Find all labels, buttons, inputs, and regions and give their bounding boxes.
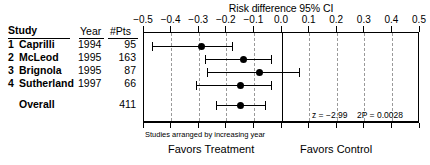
study-1-ci-line bbox=[152, 46, 232, 47]
table-row-overall: Overall411 bbox=[0, 98, 140, 111]
x-tick-bottom bbox=[336, 123, 337, 128]
x-tick-bottom bbox=[281, 123, 282, 128]
x-tick-bottom bbox=[143, 123, 144, 128]
overall-ci-cap-high bbox=[265, 101, 266, 110]
study-3-ci-cap-high bbox=[299, 68, 300, 77]
overall-ci-cap-low bbox=[216, 101, 217, 110]
table-row-study-4-name: Sutherland bbox=[19, 77, 74, 89]
table-row-study-3-name: Brignola bbox=[19, 64, 62, 76]
study-2-ci-cap-high bbox=[271, 55, 272, 64]
chart-title: Risk difference 95% CI bbox=[143, 2, 419, 14]
gridline bbox=[309, 33, 310, 121]
x-tick-label: −0.1 bbox=[244, 14, 264, 25]
x-tick-label: 0.1 bbox=[302, 14, 316, 25]
table-row-overall-pts: 411 bbox=[108, 98, 136, 110]
x-tick-label: −0.2 bbox=[216, 14, 236, 25]
x-tick-bottom bbox=[308, 123, 309, 128]
sort-note: Studies arranged by increasing year bbox=[145, 130, 265, 139]
table-row-study-3-index: 3 bbox=[8, 64, 14, 76]
table-row-study-2: 2McLeod1995163 bbox=[0, 51, 140, 64]
column-header-study: Study bbox=[8, 24, 37, 36]
x-tick-label: −0.3 bbox=[188, 14, 208, 25]
table-row-study-1-pts: 95 bbox=[108, 38, 136, 50]
x-tick-bottom bbox=[391, 123, 392, 128]
study-4-ci-cap-high bbox=[271, 81, 272, 90]
favors-treatment-label: Favors Treatment bbox=[168, 143, 254, 155]
favors-control-label: Favors Control bbox=[300, 143, 372, 155]
plot-area bbox=[143, 32, 419, 122]
study-1-ci-cap-low bbox=[152, 42, 153, 51]
table-row-study-1-index: 1 bbox=[8, 38, 14, 50]
table-row-study-2-index: 2 bbox=[8, 51, 14, 63]
x-tick-bottom bbox=[198, 123, 199, 128]
x-tick-bottom bbox=[419, 123, 420, 128]
x-tick-label: 0.2 bbox=[329, 14, 343, 25]
table-row-overall-name: Overall bbox=[19, 98, 55, 110]
study-3-point-estimate bbox=[256, 69, 263, 76]
z-statistic: z = −2.99 bbox=[312, 110, 347, 120]
study-2-point-estimate bbox=[240, 56, 247, 63]
study-4-ci-line bbox=[196, 85, 271, 86]
overall-point-estimate bbox=[237, 102, 244, 109]
x-tick-label: 0.0 bbox=[274, 14, 288, 25]
table-row-study-4-year: 1997 bbox=[78, 77, 101, 89]
x-tick-bottom bbox=[253, 123, 254, 128]
gridline bbox=[254, 33, 255, 121]
table-row-study-4-index: 4 bbox=[8, 77, 14, 89]
p-value: 2P = 0.0028 bbox=[357, 110, 403, 120]
table-row-study-2-name: McLeod bbox=[19, 51, 59, 63]
table-row-study-4-pts: 66 bbox=[108, 77, 136, 89]
gridline bbox=[364, 33, 365, 121]
x-tick-bottom bbox=[363, 123, 364, 128]
study-4-ci-cap-low bbox=[196, 81, 197, 90]
x-tick-label: 0.4 bbox=[384, 14, 398, 25]
table-row-study-3-pts: 87 bbox=[108, 64, 136, 76]
column-header-pts: #Pts bbox=[110, 25, 131, 37]
study-4-point-estimate bbox=[237, 82, 244, 89]
gridline bbox=[392, 33, 393, 121]
study-1-point-estimate bbox=[198, 43, 205, 50]
study-2-ci-cap-low bbox=[205, 55, 206, 64]
x-tick-label: −0.4 bbox=[161, 14, 181, 25]
study-2-ci-line bbox=[205, 59, 271, 60]
table-row-study-1-year: 1994 bbox=[78, 38, 101, 50]
table-row-study-1: 1Caprilli199495 bbox=[0, 38, 140, 51]
x-tick-label: 0.5 bbox=[412, 14, 426, 25]
forest-plot-figure: Risk difference 95% CI Study Year #Pts −… bbox=[0, 0, 430, 165]
column-header-year: Year bbox=[80, 25, 101, 37]
table-row-study-2-year: 1995 bbox=[78, 51, 101, 63]
study-3-ci-line bbox=[207, 72, 298, 73]
x-tick-bottom bbox=[225, 123, 226, 128]
study-1-ci-cap-high bbox=[232, 42, 233, 51]
null-effect-line bbox=[282, 33, 283, 121]
study-3-ci-cap-low bbox=[207, 68, 208, 77]
x-tick-label: 0.3 bbox=[357, 14, 371, 25]
x-tick-label: −0.5 bbox=[133, 14, 153, 25]
table-row-study-2-pts: 163 bbox=[108, 51, 136, 63]
table-row-study-1-name: Caprilli bbox=[19, 38, 55, 50]
table-row-study-3: 3Brignola199587 bbox=[0, 64, 140, 77]
gridline bbox=[337, 33, 338, 121]
table-row-study-4: 4Sutherland199766 bbox=[0, 77, 140, 90]
x-tick-bottom bbox=[170, 123, 171, 128]
table-row-study-3-year: 1995 bbox=[78, 64, 101, 76]
